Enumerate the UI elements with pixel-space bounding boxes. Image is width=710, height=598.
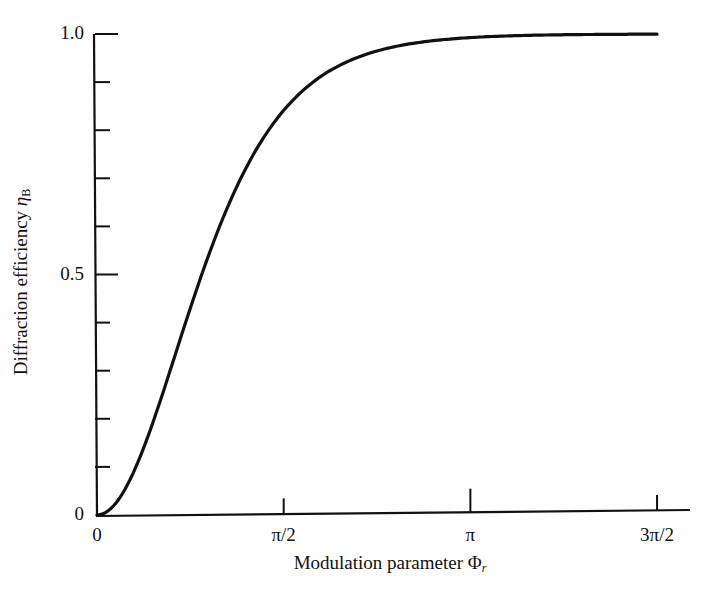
x-axis-line [96,510,690,516]
y-ticks [95,34,118,467]
axes [94,34,690,516]
y-axis-label: Diffraction efficiency ηB [10,189,34,376]
x-tick-label: 0 [92,525,102,544]
chart-plot-area [0,0,710,598]
x-tick-label: π [466,525,476,544]
x-tick-label: π/2 [271,525,295,544]
x-axis-label: Modulation parameter Φr [294,552,487,576]
efficiency-curve [97,34,657,515]
y-tick-label: 1.0 [60,23,84,42]
x-tick-label: 3π/2 [640,525,674,544]
y-tick-label: 0 [75,504,85,523]
y-tick-label: 0.5 [60,264,84,283]
